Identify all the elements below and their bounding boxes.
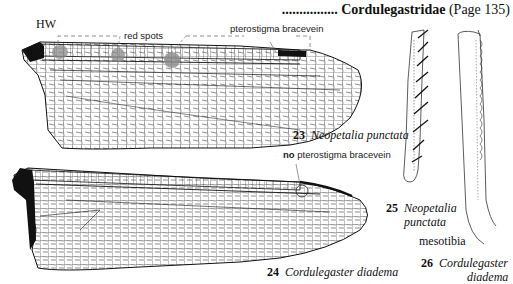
- figure-25-species-epithet: punctata: [404, 215, 446, 230]
- species-genus: Neopetalia: [404, 201, 457, 215]
- hindwing-label: HW: [36, 17, 56, 32]
- mesotibia-label: mesotibia: [419, 234, 466, 249]
- figure-number: 23: [293, 128, 305, 142]
- wing-24-drawing: [12, 164, 368, 270]
- no-emphasis: no: [283, 149, 295, 160]
- figure-number: 25: [386, 201, 398, 215]
- species-genus: Cordulegaster: [439, 256, 508, 270]
- figure-number: 26: [421, 256, 433, 270]
- figure-26-caption: 26 Cordulegaster: [421, 256, 508, 271]
- species-name: Neopetalia punctata: [311, 128, 409, 142]
- figure-25-caption: 25 Neopetalia: [386, 201, 457, 216]
- red-spots-annotation: red spots: [124, 30, 163, 41]
- figure-23-caption: 23 Neopetalia punctata: [293, 128, 409, 143]
- figure-number: 24: [267, 265, 279, 279]
- pterostigma-bracevein-annotation: pterostigma bracevein: [230, 23, 323, 34]
- no-pterostigma-bracevein-annotation: no pterostigma bracevein: [283, 149, 391, 160]
- figure-26-species-epithet: diadema: [467, 270, 508, 284]
- tibia-26-drawing: [458, 30, 496, 244]
- species-name: Cordulegaster diadema: [285, 265, 398, 279]
- tibia-25-drawing: [404, 30, 428, 182]
- annotation-text: pterostigma bracevein: [297, 149, 390, 160]
- figure-24-caption: 24 Cordulegaster diadema: [267, 265, 398, 280]
